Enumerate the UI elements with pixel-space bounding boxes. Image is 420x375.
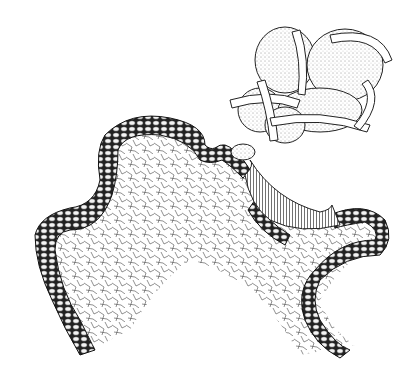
lichen-illustration xyxy=(0,0,420,375)
thallus-cross-section xyxy=(35,116,389,358)
illustration-canvas xyxy=(0,0,420,375)
soredium xyxy=(230,27,392,143)
